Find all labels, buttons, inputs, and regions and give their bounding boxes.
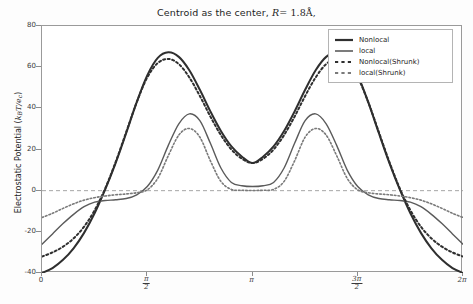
y-axis-label-suffix: ) <box>14 92 23 95</box>
y-axis-tick-label: 40 <box>2 103 36 111</box>
y-axis-tick-label: 20 <box>2 145 36 153</box>
y-axis-tick-label: -40 <box>2 268 36 276</box>
y-axis-label: Electrostatic Potential (kBT/ec) <box>14 53 23 253</box>
y-axis-label-math-sub-b: B <box>16 111 23 115</box>
y-axis-tick-label: -20 <box>2 227 36 235</box>
chart-title-text: Centroid as the center, <box>157 7 269 18</box>
legend-item-label: local(Shrunk) <box>359 69 405 77</box>
legend-item[interactable]: local <box>334 45 447 56</box>
legend-item[interactable]: local(Shrunk) <box>334 67 447 78</box>
chart-title-math: R= 1.8Å, <box>272 7 316 18</box>
x-axis-tick-label: 2π <box>457 276 466 284</box>
x-axis-tick-label: π2 <box>143 276 150 292</box>
y-axis-tick-label: 0 <box>2 186 36 194</box>
legend-line-swatch <box>334 57 354 67</box>
y-axis-label-math-k: k <box>14 115 23 120</box>
x-axis-tick-label: 0 <box>39 276 43 284</box>
legend-line-swatch <box>334 35 354 45</box>
y-axis-tick-label: 80 <box>2 21 36 29</box>
legend-item-label: local <box>359 47 375 55</box>
chart-title-math-value: = 1.8Å, <box>279 7 316 18</box>
legend-line-swatch <box>334 46 354 56</box>
chart-legend: NonlocallocalNonlocal(Shrunk)local(Shrun… <box>328 29 453 83</box>
x-axis-tick-label: 3π2 <box>351 276 362 292</box>
legend-item-label: Nonlocal <box>359 36 389 44</box>
series-line <box>42 59 463 257</box>
series-line <box>42 128 463 217</box>
y-axis-label-math-sub-c: c <box>16 95 23 98</box>
series-line <box>42 114 463 244</box>
y-axis-tick-label: 60 <box>2 62 36 70</box>
legend-line-swatch <box>334 68 354 78</box>
chart-title: Centroid as the center, R= 1.8Å, <box>0 7 473 18</box>
legend-item[interactable]: Nonlocal <box>334 34 447 45</box>
chart-figure: Centroid as the center, R= 1.8Å, Electro… <box>0 0 473 304</box>
legend-item[interactable]: Nonlocal(Shrunk) <box>334 56 447 67</box>
y-axis-label-prefix: Electrostatic Potential ( <box>14 120 23 213</box>
x-axis-tick-label: π <box>249 276 254 284</box>
legend-item-label: Nonlocal(Shrunk) <box>359 58 419 66</box>
